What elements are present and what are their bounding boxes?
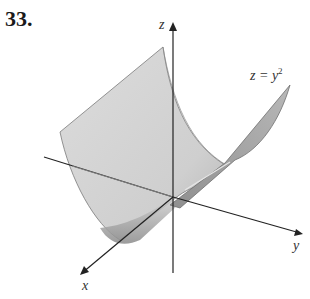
z-axis-arrowhead [169, 22, 177, 31]
y-axis-label: y [293, 238, 299, 254]
surface-equation-label: z = y2 [250, 66, 283, 84]
equation-base: z = y [250, 68, 278, 83]
x-axis-label: x [82, 278, 88, 294]
y-axis-arrowhead [294, 229, 303, 236]
y-axis [173, 197, 300, 233]
x-axis-arrowhead [80, 266, 89, 275]
z-axis-label: z [159, 17, 164, 33]
surface-back-sheet [60, 47, 225, 240]
surface-figure [0, 0, 310, 299]
equation-exponent: 2 [278, 66, 283, 76]
